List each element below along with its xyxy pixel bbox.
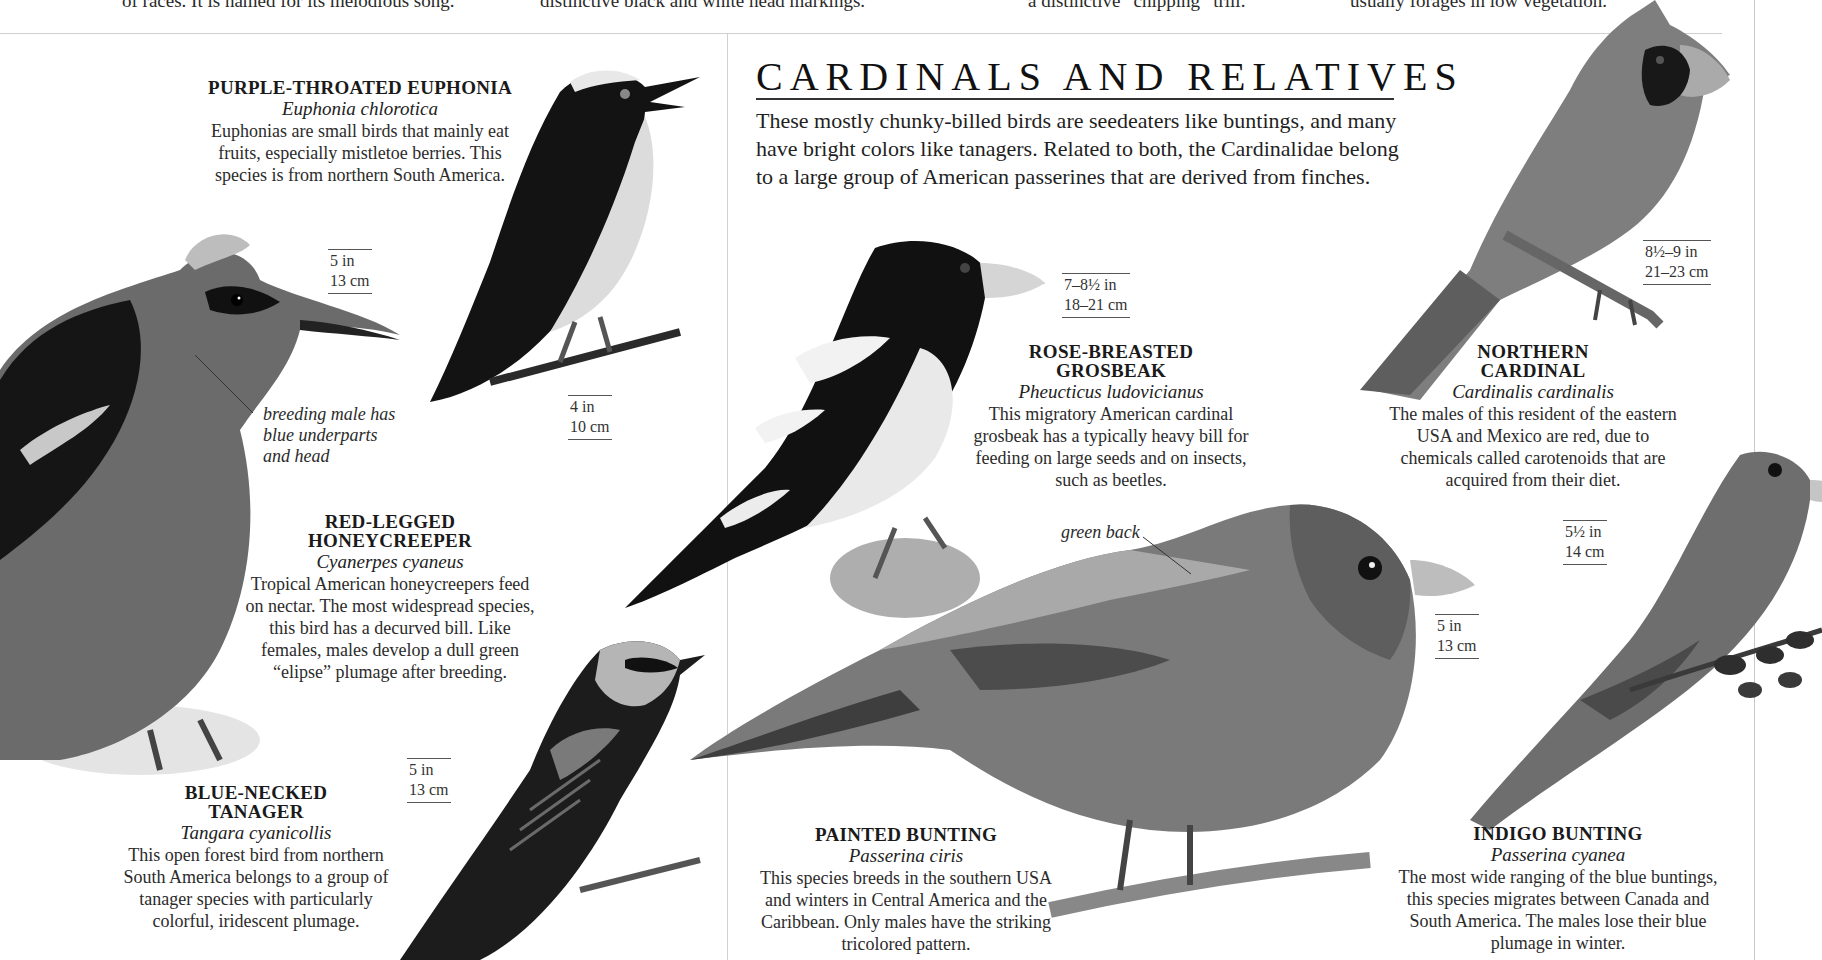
- size-cm: 13 cm: [409, 780, 449, 800]
- size-cm: 13 cm: [330, 271, 370, 291]
- top-caption-2: distinctive black and white head marking…: [540, 0, 865, 12]
- honeycreeper-scientific-name: Cyanerpes cyaneus: [245, 550, 535, 573]
- honeycreeper-illustration: [0, 230, 420, 770]
- size-cm: 14 cm: [1565, 542, 1605, 562]
- size-cm: 13 cm: [1437, 636, 1477, 656]
- top-caption-1: of races. It is named for its melodious …: [122, 0, 454, 12]
- cardinal-name-line1: NORTHERN: [1388, 342, 1678, 361]
- tanager-scientific-name: Tangara cyanicollis: [118, 821, 394, 844]
- size-in: 8½–9 in: [1645, 242, 1709, 262]
- euphonia-size: 4 in 10 cm: [568, 395, 612, 440]
- size-in: 5 in: [1437, 616, 1477, 636]
- euphonia-entry: PURPLE-THROATED EUPHONIA Euphonia chloro…: [180, 78, 540, 186]
- honeycreeper-annotation: breeding male has blue underparts and he…: [263, 404, 403, 467]
- cardinal-size: 8½–9 in 21–23 cm: [1643, 240, 1711, 285]
- indigo-bunting-name: INDIGO BUNTING: [1392, 824, 1724, 843]
- grosbeak-scientific-name: Pheucticus ludovicianus: [965, 380, 1257, 403]
- size-cm: 18–21 cm: [1064, 295, 1128, 315]
- cardinal-name-line2: CARDINAL: [1388, 361, 1678, 380]
- tanager-size: 5 in 13 cm: [407, 758, 451, 803]
- size-cm: 10 cm: [570, 417, 610, 437]
- size-in: 5 in: [409, 760, 449, 780]
- section-title: CARDINALS AND RELATIVES: [756, 55, 1464, 99]
- section-title-rule: [756, 98, 1394, 100]
- honeycreeper-entry: RED-LEGGED HONEYCREEPER Cyanerpes cyaneu…: [245, 512, 535, 683]
- tanager-name-line2: TANAGER: [118, 802, 394, 821]
- grosbeak-name-line1: ROSE-BREASTED: [965, 342, 1257, 361]
- honeycreeper-description: Tropical American honeycreepers feed on …: [245, 573, 535, 683]
- honeycreeper-size: 5 in 13 cm: [328, 249, 372, 294]
- tanager-name-line1: BLUE-NECKED: [118, 783, 394, 802]
- painted-bunting-annotation: green back: [1061, 522, 1140, 543]
- painted-bunting-scientific-name: Passerina ciris: [748, 844, 1064, 867]
- indigo-bunting-scientific-name: Passerina cyanea: [1392, 843, 1724, 866]
- painted-bunting-description: This species breeds in the southern USA …: [748, 867, 1064, 955]
- honeycreeper-name-line1: RED-LEGGED: [245, 512, 535, 531]
- grosbeak-size: 7–8½ in 18–21 cm: [1062, 273, 1130, 318]
- tanager-entry: BLUE-NECKED TANAGER Tangara cyanicollis …: [118, 783, 394, 932]
- size-in: 7–8½ in: [1064, 275, 1128, 295]
- cardinal-description: The males of this resident of the easter…: [1388, 403, 1678, 491]
- size-in: 5½ in: [1565, 522, 1605, 542]
- painted-bunting-entry: PAINTED BUNTING Passerina ciris This spe…: [748, 825, 1064, 955]
- euphonia-description: Euphonias are small birds that mainly ea…: [180, 120, 540, 186]
- indigo-bunting-description: The most wide ranging of the blue buntin…: [1392, 866, 1724, 954]
- size-cm: 21–23 cm: [1645, 262, 1709, 282]
- euphonia-name: PURPLE-THROATED EUPHONIA: [180, 78, 540, 97]
- euphonia-scientific-name: Euphonia chlorotica: [180, 97, 540, 120]
- painted-bunting-leader-line: [1143, 537, 1193, 577]
- honeycreeper-name-line2: HONEYCREEPER: [245, 531, 535, 550]
- cardinal-scientific-name: Cardinalis cardinalis: [1388, 380, 1678, 403]
- size-in: 5 in: [330, 251, 370, 271]
- size-in: 4 in: [570, 397, 610, 417]
- painted-bunting-name: PAINTED BUNTING: [748, 825, 1064, 844]
- section-intro: These mostly chunky-billed birds are see…: [756, 107, 1406, 191]
- grosbeak-description: This migratory American cardinal grosbea…: [965, 403, 1257, 491]
- grosbeak-name-line2: GROSBEAK: [965, 361, 1257, 380]
- painted-bunting-size: 5 in 13 cm: [1435, 614, 1479, 659]
- tanager-description: This open forest bird from northern Sout…: [118, 844, 394, 932]
- honeycreeper-leader-line: [195, 355, 255, 415]
- cardinal-entry: NORTHERN CARDINAL Cardinalis cardinalis …: [1388, 342, 1678, 491]
- indigo-bunting-illustration: [1430, 440, 1822, 840]
- indigo-bunting-entry: INDIGO BUNTING Passerina cyanea The most…: [1392, 824, 1724, 954]
- top-caption-3: a distinctive “chipping” trill.: [1028, 0, 1245, 12]
- indigo-bunting-size: 5½ in 14 cm: [1563, 520, 1607, 565]
- grosbeak-entry: ROSE-BREASTED GROSBEAK Pheucticus ludovi…: [965, 342, 1257, 491]
